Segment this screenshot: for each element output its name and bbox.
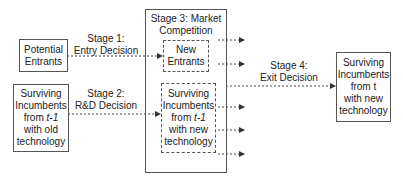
new-incumbents-line1: Surviving [163, 88, 215, 100]
new-entrants-line2: Entrants [167, 56, 204, 68]
stage4-label-line1: Stage 4: [255, 60, 323, 72]
new-incumbents-from: from [171, 112, 194, 123]
stage2-label-line2: R&D Decision [72, 100, 140, 112]
stage3-title-line2: Competition [151, 25, 222, 37]
final-incumbents-line5: technology [338, 105, 390, 117]
stage3-title-line1: Stage 3: Market [151, 13, 222, 25]
new-incumbents-box: Surviving Incumbents from t-1 with new t… [161, 83, 216, 153]
stage2-label-line1: Stage 2: [72, 88, 140, 100]
stage1-label-line2: Entry Decision [72, 45, 140, 57]
new-incumbents-line3: from t-1 [163, 112, 215, 124]
stage1-label-line1: Stage 1: [72, 33, 140, 45]
final-incumbents-line2: Incumbents [338, 69, 390, 81]
old-incumbents-line4: with old [15, 124, 67, 136]
final-incumbents-line4: with new [338, 93, 390, 105]
final-incumbents-line3: from t [338, 81, 390, 93]
new-incumbents-line4: with new [163, 124, 215, 136]
old-incumbents-from: from [24, 112, 47, 123]
old-incumbents-box: Surviving Incumbents from t-1 with old t… [13, 84, 69, 152]
new-incumbents-period: t-1 [194, 112, 206, 123]
new-incumbents-line5: technology [163, 136, 215, 148]
old-incumbents-line5: technology [15, 136, 67, 148]
old-incumbents-line1: Surviving [15, 88, 67, 100]
stage4-label: Stage 4: Exit Decision [255, 60, 323, 84]
final-incumbents-box: Surviving Incumbents from t with new tec… [336, 52, 391, 122]
old-incumbents-period: t-1 [47, 112, 59, 123]
stage1-label: Stage 1: Entry Decision [72, 33, 140, 57]
potential-entrants-line2: Entrants [24, 56, 63, 68]
potential-entrants-box: Potential Entrants [19, 39, 68, 72]
new-incumbents-line2: Incumbents [163, 100, 215, 112]
old-incumbents-line3: from t-1 [15, 112, 67, 124]
stage2-label: Stage 2: R&D Decision [72, 88, 140, 112]
new-entrants-line1: New [167, 44, 204, 56]
old-incumbents-line2: Incumbents [15, 100, 67, 112]
final-incumbents-line1: Surviving [338, 57, 390, 69]
new-entrants-box: New Entrants [163, 40, 209, 72]
potential-entrants-line1: Potential [24, 44, 63, 56]
stage4-label-line2: Exit Decision [255, 72, 323, 84]
